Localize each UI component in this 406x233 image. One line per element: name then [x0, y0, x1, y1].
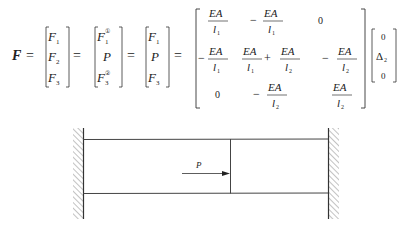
svg-text:2: 2: [56, 58, 60, 66]
svg-text:−: −: [253, 87, 260, 101]
matrix-row-2: − EA l 1 EA l 1 + EA l 2 − EA l 2: [198, 45, 357, 74]
svg-text:EA: EA: [242, 45, 257, 57]
svg-text:1: 1: [251, 68, 254, 74]
svg-text:l: l: [342, 61, 345, 73]
svg-text:1: 1: [272, 30, 275, 36]
svg-text:1: 1: [105, 38, 109, 46]
svg-text:2: 2: [341, 104, 344, 110]
svg-text:EA: EA: [332, 81, 347, 93]
svg-text:1: 1: [217, 30, 220, 36]
stiffness-equation: F = F 1 F 2 F 3 = F 1 ① P F 3 ② = F 1 P …: [0, 0, 406, 120]
svg-text:EA: EA: [263, 7, 278, 19]
vec2-item-2: P: [102, 49, 111, 64]
bar-element: [83, 139, 328, 194]
svg-text:−: −: [322, 51, 329, 65]
equals-sign-3: =: [127, 48, 135, 63]
svg-text:−: −: [198, 51, 205, 65]
matrix-row-1: EA l 1 − EA l 1 0: [208, 7, 323, 36]
force-vector-symbol: F: [11, 48, 22, 63]
svg-text:3: 3: [56, 79, 60, 87]
left-fixed-support: [73, 128, 84, 219]
svg-text:2: 2: [276, 104, 279, 110]
svg-text:3: 3: [105, 79, 109, 87]
svg-text:−: −: [250, 13, 257, 27]
svg-text:l: l: [268, 23, 271, 35]
svg-text:EA: EA: [208, 45, 223, 57]
svg-text:EA: EA: [208, 7, 223, 19]
svg-text:l: l: [337, 97, 340, 109]
svg-text:1: 1: [156, 38, 160, 46]
disp-item-3: 0: [381, 71, 386, 81]
disp-item-1: 0: [381, 32, 386, 42]
svg-text:2: 2: [384, 57, 387, 63]
right-fixed-support: [328, 128, 339, 219]
svg-text:l: l: [272, 97, 275, 109]
svg-text:l: l: [213, 23, 216, 35]
load-arrow: [182, 171, 230, 176]
disp-item-2: Δ: [376, 50, 383, 62]
equals-sign-2: =: [73, 48, 81, 63]
svg-text:1: 1: [56, 38, 60, 46]
svg-text:0: 0: [318, 15, 323, 26]
svg-text:0: 0: [215, 89, 220, 100]
svg-text:EA: EA: [267, 81, 282, 93]
svg-text:EA: EA: [337, 45, 352, 57]
bracket-matrix: [196, 9, 365, 108]
svg-text:2: 2: [346, 68, 349, 74]
matrix-row-3: 0 − EA l 2 EA l 2: [215, 81, 352, 110]
vec3-item-2: P: [150, 49, 159, 64]
svg-text:l: l: [213, 61, 216, 73]
svg-text:1: 1: [217, 68, 220, 74]
svg-text:3: 3: [156, 79, 160, 87]
svg-text:l: l: [247, 61, 250, 73]
svg-text:②: ②: [105, 70, 110, 76]
svg-text:l: l: [285, 61, 288, 73]
bar-diagram: P: [0, 118, 406, 233]
load-label: P: [195, 160, 202, 170]
svg-text:①: ①: [105, 28, 110, 34]
equals-sign-1: =: [26, 48, 34, 63]
equals-sign-4: =: [174, 48, 182, 63]
svg-text:EA: EA: [280, 45, 295, 57]
svg-text:+: +: [264, 51, 271, 65]
svg-text:2: 2: [289, 68, 292, 74]
